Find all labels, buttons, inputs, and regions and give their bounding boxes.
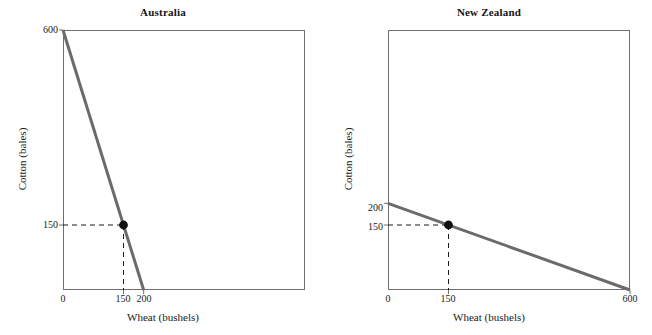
ytick-label-600-australia: 600 bbox=[20, 24, 58, 35]
x-axis-title-australia: Wheat (bushels) bbox=[0, 311, 326, 323]
production-point-newzealand bbox=[444, 221, 453, 230]
plot-area-newzealand bbox=[388, 30, 630, 290]
chart-panel-newzealand: New Zealand 200 150 0 150 600 Cotton (ba… bbox=[326, 0, 652, 335]
xtick-label-0-australia: 0 bbox=[48, 293, 78, 304]
panel-title-newzealand: New Zealand bbox=[326, 6, 652, 18]
ppf-line-australia bbox=[63, 30, 144, 290]
chart-panel-australia: Australia 600 150 0 150 200 Cotton (bale… bbox=[0, 0, 326, 335]
plot-area-australia bbox=[63, 30, 305, 290]
production-point-australia bbox=[119, 221, 128, 230]
xtick-label-0-newzealand: 0 bbox=[373, 293, 403, 304]
ppf-line-newzealand bbox=[388, 203, 630, 290]
y-axis-title-australia: Cotton (bales) bbox=[16, 109, 28, 209]
xtick-label-150-newzealand: 150 bbox=[433, 293, 463, 304]
y-axis-title-newzealand: Cotton (bales) bbox=[342, 109, 354, 209]
ytick-label-150-australia: 150 bbox=[20, 219, 58, 230]
x-axis-title-newzealand: Wheat (bushels) bbox=[326, 311, 652, 323]
xtick-label-600-newzealand: 600 bbox=[615, 293, 645, 304]
ytick-label-150-newzealand: 150 bbox=[345, 221, 383, 232]
xtick-label-200-australia: 200 bbox=[129, 293, 159, 304]
panel-title-australia: Australia bbox=[0, 6, 326, 18]
